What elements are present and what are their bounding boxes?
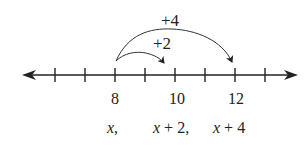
expression-x: x, xyxy=(106,119,118,136)
expression-x-plus-2: x + 2, xyxy=(152,119,189,136)
arc-label-plus-2: +2 xyxy=(153,34,171,53)
arc-plus-2: +2 xyxy=(116,34,171,63)
number-line-axis xyxy=(22,70,298,80)
tick-label-8: 8 xyxy=(111,90,119,107)
tick-label-12: 12 xyxy=(228,90,244,107)
expression-x-plus-4: x + 4 xyxy=(212,119,245,136)
arc-plus-4: +4 xyxy=(116,11,232,62)
number-line-diagram: +4 +2 8 10 12 x, x + 2, x + 4 xyxy=(0,0,307,146)
tick-label-10: 10 xyxy=(169,90,185,107)
arc-label-plus-4: +4 xyxy=(161,11,180,30)
